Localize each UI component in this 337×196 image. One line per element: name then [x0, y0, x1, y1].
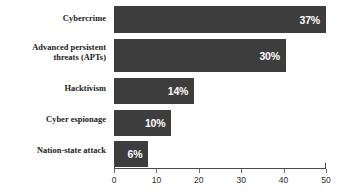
bar-row: 10% — [114, 110, 326, 136]
bar-value-label: 6% — [128, 148, 143, 160]
x-axis-line — [114, 168, 326, 169]
category-label-advanced-persistent-threats: Advanced persistent threats (APTs) — [0, 43, 106, 64]
bar-value-label: 10% — [145, 117, 165, 129]
x-axis-tick-mark — [114, 169, 115, 173]
category-label-cybercrime: Cybercrime — [0, 14, 106, 24]
x-axis-tick-label: 10 — [152, 175, 161, 185]
x-axis-tick-mark — [284, 169, 285, 173]
bar-cybercrime: 37% — [114, 6, 326, 33]
x-axis-tick-mark — [241, 169, 242, 173]
x-axis-tick-mark — [326, 169, 327, 173]
category-label-hacktivism: Hacktivism — [0, 84, 106, 94]
category-label-line1: Advanced persistent — [32, 43, 106, 52]
x-axis-tick-label: 30 — [236, 175, 245, 185]
bar-nation-state-attack: 6% — [114, 141, 148, 167]
bar-advanced-persistent-threats: 30% — [114, 39, 286, 72]
bar-value-label: 37% — [300, 14, 320, 26]
x-axis-tick-mark — [156, 169, 157, 173]
bar-hacktivism: 14% — [114, 78, 194, 104]
plot-area: 37% 30% 14% 10% 6% — [114, 0, 326, 168]
bar-row: 30% — [114, 39, 326, 72]
bar-row: 14% — [114, 78, 326, 104]
category-label-line1: Nation-state attack — [37, 146, 106, 155]
x-axis-tick-label: 0 — [112, 175, 117, 185]
bar-value-label: 14% — [168, 85, 188, 97]
x-axis-tick-label: 20 — [194, 175, 203, 185]
category-label-nation-state-attack: Nation-state attack — [0, 146, 106, 156]
bar-cyber-espionage: 10% — [114, 110, 171, 136]
x-axis-tick-mark — [199, 169, 200, 173]
x-axis-tick-label: 50 — [321, 175, 330, 185]
bar-row: 37% — [114, 6, 326, 33]
category-label-cyber-espionage: Cyber espionage — [0, 115, 106, 125]
category-label-line1: Cyber espionage — [46, 115, 106, 124]
category-label-line2: threats (APTs) — [53, 53, 106, 62]
x-axis-tick-label: 40 — [279, 175, 288, 185]
bar-value-label: 30% — [259, 50, 279, 62]
category-label-line1: Cybercrime — [63, 14, 106, 23]
category-label-column: Cybercrime Advanced persistent threats (… — [0, 0, 112, 168]
bar-row: 6% — [114, 141, 326, 167]
bar-chart: Cybercrime Advanced persistent threats (… — [0, 0, 337, 196]
category-label-line1: Hacktivism — [65, 84, 106, 93]
